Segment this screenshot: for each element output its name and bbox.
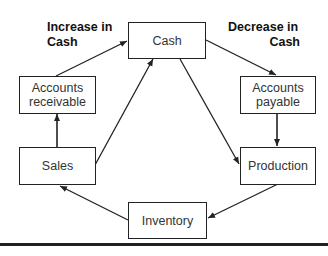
node-sales: Sales bbox=[19, 147, 96, 185]
arrow-cash-to-production bbox=[180, 59, 239, 164]
bottom-divider bbox=[0, 243, 328, 246]
arrow-sales-to-cash bbox=[95, 59, 153, 165]
node-production-label: Production bbox=[248, 159, 308, 173]
node-ar-label-line1: Accounts bbox=[32, 81, 83, 95]
node-ar-label-line2: receivable bbox=[29, 95, 86, 109]
arrow-production-to-inventory bbox=[208, 184, 278, 218]
node-cash: Cash bbox=[128, 22, 206, 59]
node-inventory-label: Inventory bbox=[142, 214, 193, 228]
node-accounts-payable: Accounts payable bbox=[240, 76, 316, 114]
arrow-inventory-to-sales bbox=[60, 186, 128, 220]
node-sales-label: Sales bbox=[42, 159, 73, 173]
node-ap-label-line1: Accounts bbox=[252, 81, 303, 95]
node-inventory: Inventory bbox=[128, 202, 207, 239]
node-ap-label-line2: payable bbox=[256, 95, 300, 109]
node-production: Production bbox=[240, 147, 316, 185]
arrow-ar-to-cash bbox=[56, 41, 127, 76]
node-accounts-receivable: Accounts receivable bbox=[19, 76, 96, 114]
node-cash-label: Cash bbox=[152, 34, 181, 48]
arrow-cash-to-ap bbox=[206, 40, 276, 75]
